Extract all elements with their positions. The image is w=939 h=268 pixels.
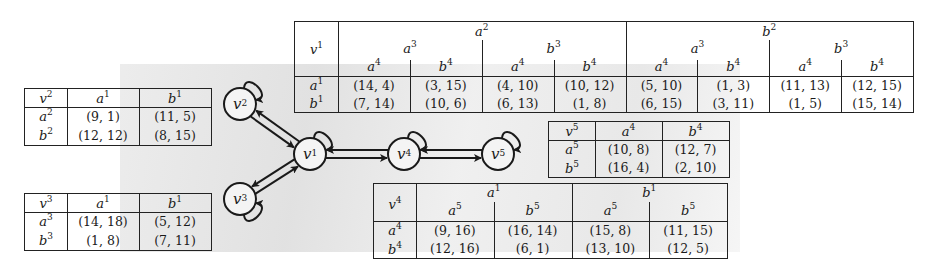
row-header: b5 xyxy=(549,159,595,178)
column-header: b4 xyxy=(662,122,729,140)
payoff-cell: (13, 10) xyxy=(572,240,650,259)
column-header-player4: b4 xyxy=(554,57,626,76)
payoff-cell: (6, 1) xyxy=(494,240,572,259)
payoff-cell: (12, 5) xyxy=(649,240,727,259)
payoff-cell: (3, 11) xyxy=(697,94,769,112)
payoff-cell: (10, 8) xyxy=(595,140,662,159)
row-header: a2 xyxy=(25,107,67,126)
table-divider xyxy=(25,212,211,213)
table-divider xyxy=(338,22,339,112)
payoff-cell: (12, 15) xyxy=(841,76,913,94)
column-header-player5: b5 xyxy=(494,200,572,221)
table-divider xyxy=(626,22,627,112)
column-header-player2: b2 xyxy=(626,22,914,40)
column-header: b1 xyxy=(139,89,211,107)
payoff-cell: (10, 12) xyxy=(554,76,626,94)
row-header: b1 xyxy=(295,94,338,112)
row-header: b2 xyxy=(25,126,67,145)
column-header-player1: b1 xyxy=(572,184,728,200)
column-header: a1 xyxy=(67,194,139,212)
column-header-player3: b3 xyxy=(769,39,913,57)
payoff-cell: (1, 3) xyxy=(697,76,769,94)
table-divider xyxy=(67,194,68,250)
table-divider xyxy=(841,60,842,112)
row-header: a1 xyxy=(295,76,338,94)
payoff-cell: (8, 15) xyxy=(139,126,211,145)
table-divider xyxy=(67,89,68,145)
table-divider xyxy=(410,60,411,112)
table-divider xyxy=(139,194,140,250)
table-divider xyxy=(374,221,727,222)
payoff-cell: (1, 5) xyxy=(769,94,841,112)
column-header-player4: a4 xyxy=(769,57,841,76)
node-label-v2: v2 xyxy=(224,88,256,120)
table-divider xyxy=(572,184,573,258)
payoff-cell: (7, 14) xyxy=(338,94,410,112)
column-header-player4: b4 xyxy=(841,57,913,76)
table-divider xyxy=(549,140,729,141)
payoff-cell: (12, 16) xyxy=(416,240,494,259)
row-header: a3 xyxy=(25,212,67,231)
row-header: b3 xyxy=(25,231,67,250)
table-divider xyxy=(554,60,555,112)
payoff-cell: (1, 8) xyxy=(67,231,139,250)
column-header-player4: b4 xyxy=(410,57,482,76)
payoff-cell: (6, 15) xyxy=(626,94,698,112)
table-divider xyxy=(697,60,698,112)
payoff-cell: (15, 8) xyxy=(572,221,650,240)
row-header: a4 xyxy=(374,221,416,240)
table-divider xyxy=(649,202,650,258)
payoff-cell: (5, 10) xyxy=(626,76,698,94)
column-header-player1: a1 xyxy=(416,184,572,200)
table-divider xyxy=(482,40,483,112)
column-header: a4 xyxy=(595,122,662,140)
node-label-v5: v5 xyxy=(482,138,514,170)
table-corner-label: v2 xyxy=(25,89,67,107)
column-header-player2: a2 xyxy=(338,22,626,40)
payoff-table-v5: v5a4b4a5(10, 8)(12, 7)b5(16, 4)(2, 10) xyxy=(548,121,730,178)
table-corner-label: v1 xyxy=(295,22,338,76)
row-header: a5 xyxy=(549,140,595,159)
column-header-player4: a4 xyxy=(338,57,410,76)
column-header-player3: a3 xyxy=(338,39,482,57)
payoff-cell: (6, 13) xyxy=(482,94,554,112)
payoff-cell: (5, 12) xyxy=(139,212,211,231)
column-header-player5: b5 xyxy=(649,200,727,221)
payoff-cell: (4, 10) xyxy=(482,76,554,94)
node-label-v4: v4 xyxy=(388,138,420,170)
payoff-table-v4: v4a1b1a5b5a5b5a4(9, 16)(16, 14)(15, 8)(1… xyxy=(373,183,728,259)
table-divider xyxy=(295,76,913,77)
payoff-table-v1: v1a2b2a3b3a3b3a4b4a4b4a4b4a4b4a1(14, 4)(… xyxy=(294,21,914,113)
column-header-player5: a5 xyxy=(572,200,650,221)
column-header-player4: a4 xyxy=(626,57,698,76)
payoff-cell: (11, 15) xyxy=(649,221,727,240)
column-header-player3: b3 xyxy=(482,39,626,57)
column-header-player4: b4 xyxy=(697,57,769,76)
payoff-cell: (9, 16) xyxy=(416,221,494,240)
table-corner-label: v4 xyxy=(374,184,416,225)
payoff-cell: (15, 14) xyxy=(841,94,913,112)
payoff-cell: (14, 4) xyxy=(338,76,410,94)
payoff-cell: (11, 13) xyxy=(769,76,841,94)
table-divider xyxy=(494,202,495,258)
column-header: a1 xyxy=(67,89,139,107)
payoff-cell: (2, 10) xyxy=(662,159,729,178)
column-header-player5: a5 xyxy=(416,200,494,221)
payoff-cell: (3, 15) xyxy=(410,76,482,94)
payoff-table-v3: v3a1b1a3(14, 18)(5, 12)b3(1, 8)(7, 11) xyxy=(24,193,212,251)
table-corner-label: v3 xyxy=(25,194,67,212)
column-header-player4: a4 xyxy=(482,57,554,76)
payoff-cell: (16, 4) xyxy=(595,159,662,178)
payoff-cell: (12, 12) xyxy=(67,126,139,145)
table-divider xyxy=(769,40,770,112)
table-divider xyxy=(662,122,663,177)
table-divider xyxy=(595,122,596,177)
table-corner-label: v5 xyxy=(549,122,595,140)
payoff-table-v2: v2a1b1a2(9, 1)(11, 5)b2(12, 12)(8, 15) xyxy=(24,88,212,146)
column-header: b1 xyxy=(139,194,211,212)
node-label-v1: v1 xyxy=(294,138,326,170)
column-header-player3: a3 xyxy=(626,39,770,57)
table-divider xyxy=(25,107,211,108)
payoff-cell: (14, 18) xyxy=(67,212,139,231)
table-divider xyxy=(139,89,140,145)
